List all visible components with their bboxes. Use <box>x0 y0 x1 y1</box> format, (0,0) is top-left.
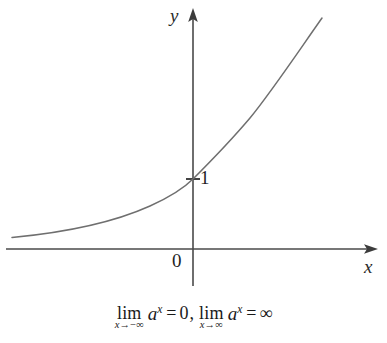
caption-separator: , <box>190 304 195 322</box>
equals-left: = <box>166 304 176 322</box>
limit-value-right: ∞ <box>259 304 272 322</box>
limit-value-left: 0 <box>180 304 189 322</box>
exponential-curve <box>12 18 322 238</box>
equals-right: = <box>246 304 256 322</box>
limit-operator-left-stack: lim x→−∞ <box>115 304 144 331</box>
lim-subscript-right: x→∞ <box>199 320 224 331</box>
limit-caption: lim x→−∞ ax=0 , lim x→∞ ax=∞ <box>0 300 387 327</box>
limit-operator-right-stack: lim x→∞ <box>199 304 224 331</box>
origin-label: 0 <box>172 251 182 270</box>
function-right: ax <box>228 304 243 323</box>
y-axis-label: y <box>170 6 178 25</box>
function-right-exponent: x <box>237 302 242 314</box>
lim-subscript-right-arrow: → <box>205 319 216 330</box>
graph-canvas <box>0 0 387 343</box>
function-right-base: a <box>228 303 238 324</box>
function-left: ax <box>148 304 163 323</box>
limit-expression-left: lim x→−∞ ax=0 <box>115 300 189 327</box>
x-axis-label: x <box>364 257 372 276</box>
lim-subscript-right-target: ∞ <box>215 319 223 330</box>
function-left-exponent: x <box>157 302 162 314</box>
function-left-base: a <box>148 303 158 324</box>
lim-subscript-left: x→−∞ <box>115 320 144 331</box>
y-intercept-label: 1 <box>200 168 210 187</box>
exponential-function-figure: y x 1 0 lim x→−∞ ax=0 , lim x→∞ ax=∞ <box>0 0 387 343</box>
lim-subscript-left-arrow: → <box>120 319 131 330</box>
lim-subscript-left-target: −∞ <box>130 319 144 330</box>
limit-expression-right: lim x→∞ ax=∞ <box>199 300 272 327</box>
